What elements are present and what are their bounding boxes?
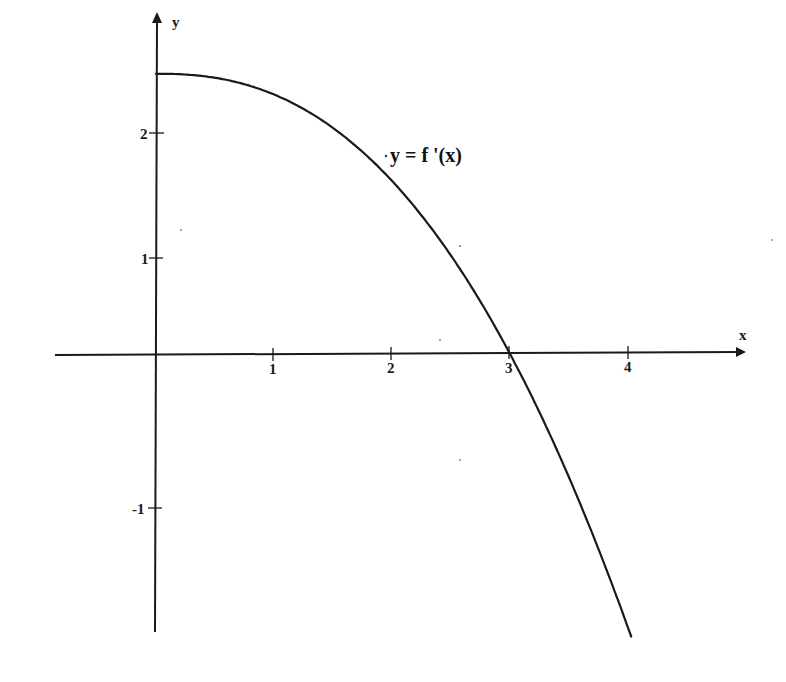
y-tick-label-neg1: -1: [132, 501, 145, 517]
y-axis-arrow-icon: [152, 12, 162, 23]
x-axis-name: x: [739, 327, 747, 343]
x-tick-label-2: 2: [387, 360, 395, 376]
x-axis: [55, 352, 740, 355]
x-tick-label-1: 1: [269, 361, 277, 377]
y-axis-name: y: [172, 14, 180, 30]
label-dot: [385, 155, 387, 157]
speck: [180, 229, 182, 231]
y-axis: [155, 20, 157, 632]
curve-label: y = f '(x): [390, 144, 462, 167]
x-tick-label-3: 3: [505, 360, 513, 376]
speck: [459, 459, 461, 461]
y-tick-label-1: 1: [141, 251, 149, 267]
x-tick-label-4: 4: [624, 359, 632, 375]
speck: [771, 239, 773, 241]
speck: [459, 245, 461, 247]
speck: [439, 339, 441, 341]
y-tick-label-2: 2: [140, 126, 148, 142]
graph-canvas: y x 1 2 3 4 2 1 -1 y = f '(x): [0, 0, 786, 682]
x-axis-arrow-icon: [736, 347, 746, 357]
